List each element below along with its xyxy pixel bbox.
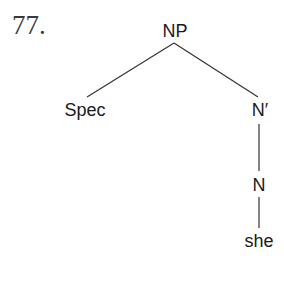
branch-np-spec: [87, 43, 174, 97]
node-word-she: she: [244, 232, 273, 250]
node-n: N: [253, 176, 266, 194]
node-np: NP: [162, 22, 187, 40]
branch-np-nbar: [174, 43, 258, 97]
node-spec: Spec: [64, 101, 105, 119]
tree-branches: [0, 0, 284, 282]
node-nbar: N′: [252, 101, 268, 119]
